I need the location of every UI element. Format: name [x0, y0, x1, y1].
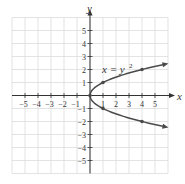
graph: −5−4−3−2−112345−5−4−3−2−112345 xyx = y2 — [0, 0, 185, 184]
y-tick-label: 1 — [82, 79, 86, 88]
y-tick-label: 4 — [82, 40, 86, 49]
x-axis-label: x — [176, 90, 182, 102]
x-tick-label: 2 — [114, 100, 118, 109]
y-tick-label: −4 — [77, 144, 86, 153]
x-tick-label: −4 — [32, 100, 41, 109]
x-tick-label: 4 — [140, 100, 144, 109]
y-tick-label: −3 — [77, 131, 86, 140]
y-axis-label: y — [86, 2, 92, 14]
y-tick-label: 5 — [82, 27, 86, 36]
y-tick-label: 2 — [82, 66, 86, 75]
x-tick-label: −2 — [58, 100, 67, 109]
x-tick-label: 3 — [127, 100, 131, 109]
x-axis-arrow-icon — [169, 93, 175, 98]
y-tick-label: −2 — [77, 118, 86, 127]
data-point — [140, 120, 144, 124]
y-tick-label: 3 — [82, 53, 86, 62]
equation-label: x = y — [101, 63, 125, 75]
x-tick-label: −5 — [19, 100, 28, 109]
equation-exponent: 2 — [129, 62, 133, 70]
y-tick-label: −1 — [77, 105, 86, 114]
axes — [12, 10, 175, 174]
data-point — [140, 68, 144, 72]
data-point — [101, 81, 105, 85]
upper-arrow-icon — [162, 62, 168, 67]
lower-arrow-icon — [162, 124, 168, 129]
y-tick-label: −5 — [77, 157, 86, 166]
x-tick-label: 5 — [153, 100, 157, 109]
data-point — [88, 94, 92, 98]
data-point — [101, 107, 105, 111]
x-tick-label: −3 — [45, 100, 54, 109]
